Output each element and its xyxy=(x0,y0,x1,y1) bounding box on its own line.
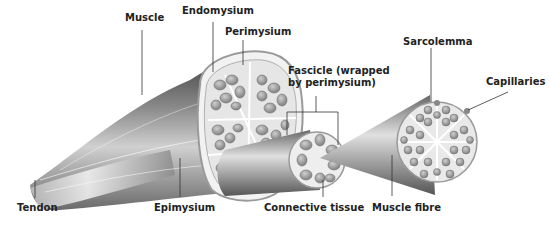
label-fascicle: Fascicle (wrapped by perimysium) xyxy=(288,65,390,89)
label-sarcolemma: Sarcolemma xyxy=(403,36,472,48)
label-connective-tissue: Connective tissue xyxy=(264,202,364,214)
label-muscle: Muscle xyxy=(125,12,164,24)
label-endomysium: Endomysium xyxy=(182,5,254,17)
label-epimysium: Epimysium xyxy=(154,202,215,214)
label-capillaries: Capillaries xyxy=(486,76,545,88)
muscle-structure-diagram: Muscle Endomysium Perimysium Fascicle (w… xyxy=(0,0,549,230)
label-tendon: Tendon xyxy=(17,202,58,214)
label-perimysium: Perimysium xyxy=(225,26,291,38)
label-muscle-fibre: Muscle fibre xyxy=(372,202,441,214)
muscle-fibre xyxy=(320,95,477,195)
